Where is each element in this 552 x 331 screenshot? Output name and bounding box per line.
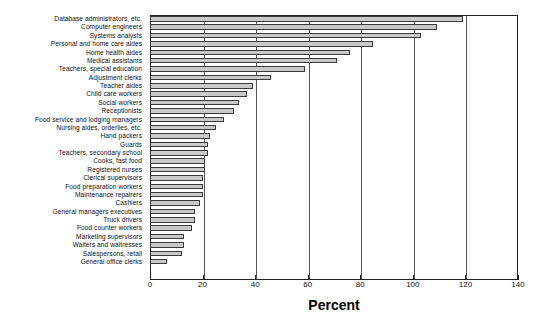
bar-row — [150, 74, 518, 82]
x-tick-label: 20 — [198, 280, 207, 289]
category-label: Cooks, fast food — [0, 157, 146, 165]
bar-row — [150, 199, 518, 207]
bar — [150, 234, 184, 240]
bar-row — [150, 241, 518, 249]
bar-row — [150, 15, 518, 23]
category-label: Clerical supervisors — [0, 174, 146, 182]
category-label: Teachers, special education — [0, 65, 146, 73]
category-label: Waiters and waitresses — [0, 241, 146, 249]
bar-row — [150, 49, 518, 57]
bar — [150, 33, 421, 39]
x-tick-label: 120 — [459, 280, 472, 289]
bar — [150, 242, 184, 248]
bar-row — [150, 107, 518, 115]
bar — [150, 125, 216, 131]
x-tick-label: 60 — [303, 280, 312, 289]
bar — [150, 225, 192, 231]
bar — [150, 133, 210, 139]
bar-row — [150, 82, 518, 90]
category-label: Computer engineers — [0, 23, 146, 31]
bar — [150, 142, 208, 148]
bar-chart: Database administrators, etc.Computer en… — [0, 0, 552, 331]
category-label: Salespersons, retail — [0, 250, 146, 258]
category-label: Systems analysts — [0, 32, 146, 40]
bar-row — [150, 65, 518, 73]
bar — [150, 167, 205, 173]
bar — [150, 91, 247, 97]
bar — [150, 100, 239, 106]
category-label: Database administrators, etc. — [0, 15, 146, 23]
category-label: Cashiers — [0, 199, 146, 207]
bar — [150, 209, 195, 215]
category-label: Guards — [0, 141, 146, 149]
bar-row — [150, 166, 518, 174]
category-label: Adjustment clerks — [0, 74, 146, 82]
category-label: Receptionists — [0, 107, 146, 115]
category-label: Food preparation workers — [0, 183, 146, 191]
category-label: Medical assistants — [0, 57, 146, 65]
category-label: Food counter workers — [0, 224, 146, 232]
bar-row — [150, 224, 518, 232]
category-label: Hand packers — [0, 132, 146, 140]
category-label: Social workers — [0, 99, 146, 107]
category-label: Child care workers — [0, 90, 146, 98]
bar — [150, 259, 167, 265]
bar — [150, 16, 463, 22]
bar — [150, 251, 182, 257]
x-axis-ticks: 020406080100120140 — [0, 280, 552, 296]
bar-row — [150, 258, 518, 266]
category-label: Personal and home care aides — [0, 40, 146, 48]
bar — [150, 83, 253, 89]
bar-row — [150, 141, 518, 149]
bar-row — [150, 250, 518, 258]
bar — [150, 175, 203, 181]
x-tick-label: 0 — [148, 280, 152, 289]
bar-row — [150, 124, 518, 132]
bar — [150, 58, 337, 64]
bar-row — [150, 157, 518, 165]
bar-row — [150, 149, 518, 157]
x-tick-label: 140 — [511, 280, 524, 289]
bar — [150, 24, 437, 30]
bar — [150, 158, 205, 164]
bar — [150, 200, 200, 206]
category-label: Registered nurses — [0, 166, 146, 174]
category-label: Nursing aides, orderlies, etc. — [0, 124, 146, 132]
bar-row — [150, 90, 518, 98]
category-label: Teacher aides — [0, 82, 146, 90]
bar-row — [150, 32, 518, 40]
bar — [150, 150, 208, 156]
bar-row — [150, 191, 518, 199]
bars-container — [150, 15, 518, 280]
bar-row — [150, 40, 518, 48]
category-label: Teachers, secondary school — [0, 149, 146, 157]
bar — [150, 108, 234, 114]
bar-row — [150, 116, 518, 124]
category-label: General office clerks — [0, 258, 146, 266]
x-tick-label: 80 — [356, 280, 365, 289]
bar — [150, 117, 224, 123]
bar — [150, 184, 203, 190]
bar-row — [150, 23, 518, 31]
category-label: Marketing supervisors — [0, 233, 146, 241]
category-label: Truck drivers — [0, 216, 146, 224]
x-axis-title: Percent — [150, 297, 518, 313]
category-labels: Database administrators, etc.Computer en… — [0, 15, 146, 280]
x-tick-label: 100 — [406, 280, 419, 289]
bar — [150, 66, 305, 72]
bar-row — [150, 183, 518, 191]
bar-row — [150, 216, 518, 224]
bar-row — [150, 233, 518, 241]
category-label: General managers executives — [0, 208, 146, 216]
bar — [150, 41, 373, 47]
bar — [150, 192, 203, 198]
category-label: Food service and lodging managers — [0, 116, 146, 124]
x-tick-label: 40 — [251, 280, 260, 289]
category-label: Home health aides — [0, 49, 146, 57]
bar-row — [150, 99, 518, 107]
bar — [150, 217, 195, 223]
bar-row — [150, 208, 518, 216]
bar-row — [150, 57, 518, 65]
bar — [150, 50, 350, 56]
bar — [150, 75, 271, 81]
